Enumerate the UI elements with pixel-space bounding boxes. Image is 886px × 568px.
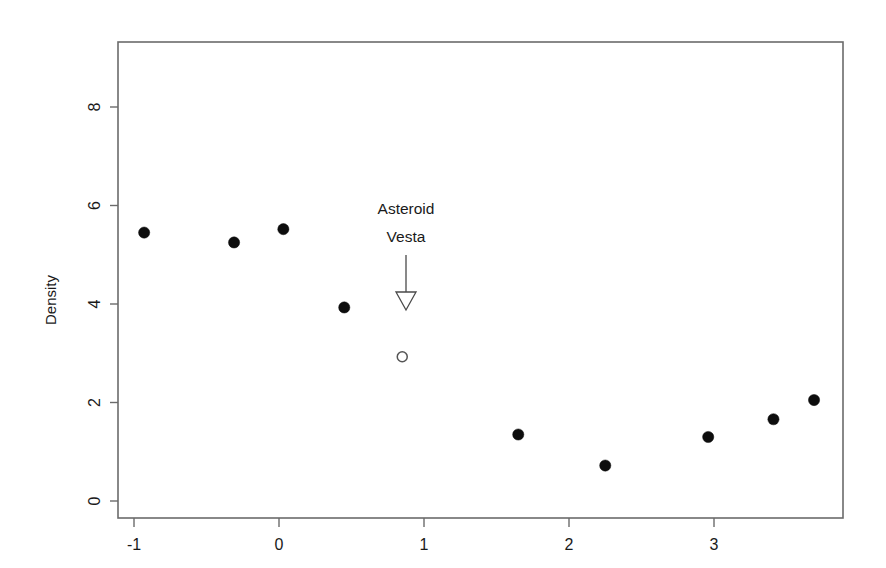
data-points-layer: [139, 224, 820, 472]
arrow-head-icon: [396, 292, 416, 310]
data-point: [703, 431, 714, 442]
x-tick-label-3: 3: [710, 536, 719, 553]
plot-frame: [118, 42, 843, 518]
vesta-annotation-arrow: [396, 255, 416, 310]
data-point: [600, 460, 611, 471]
x-tick-label-0: 0: [275, 536, 284, 553]
y-tick-label-0: 0: [86, 496, 103, 505]
y-axis-ticks: [110, 107, 118, 501]
data-point: [228, 237, 239, 248]
x-axis-ticks: [134, 518, 714, 527]
y-tick-label-2: 2: [86, 398, 103, 407]
data-point: [139, 227, 150, 238]
y-tick-label-8: 8: [86, 102, 103, 111]
x-axis-tick-labels: -1 0 1 2 3: [127, 536, 719, 553]
plot-canvas: 8 6 4 2 0 Density -1 0 1 2 3: [0, 0, 886, 568]
scatter-plot-figure: 8 6 4 2 0 Density -1 0 1 2 3: [0, 0, 886, 568]
x-tick-label--1: -1: [127, 536, 141, 553]
y-tick-label-4: 4: [86, 299, 103, 308]
annotation-line-2: Vesta: [387, 228, 426, 245]
y-axis-tick-labels: 8 6 4 2 0: [86, 102, 103, 505]
y-tick-label-6: 6: [86, 201, 103, 210]
x-tick-label-1: 1: [420, 536, 429, 553]
y-axis-title: Density: [42, 274, 59, 325]
data-point-open-vesta: [397, 352, 407, 362]
data-point: [808, 394, 819, 405]
data-point: [278, 224, 289, 235]
data-point: [768, 414, 779, 425]
x-tick-label-2: 2: [565, 536, 574, 553]
annotation-line-1: Asteroid: [378, 200, 435, 217]
data-point: [339, 302, 350, 313]
data-point: [513, 429, 524, 440]
